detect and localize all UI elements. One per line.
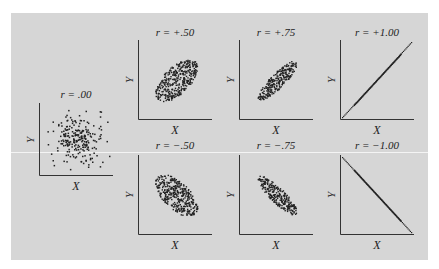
scatter-plot [340, 155, 414, 235]
panel-title: r = +.50 [156, 26, 194, 38]
panel-title: r = +1.00 [355, 26, 399, 38]
panel-title: r = −1.00 [355, 139, 399, 151]
scatter-plot [239, 155, 313, 235]
panel-title: r = −.50 [156, 139, 194, 151]
scatter-panel-rm075 [239, 155, 313, 235]
x-axis-label: X [272, 238, 279, 253]
scatter-panel-rm050 [138, 155, 212, 235]
scatter-panel-rp050 [138, 40, 212, 120]
x-axis-label: X [373, 238, 380, 253]
y-axis-label: Y [123, 192, 135, 198]
x-axis-label: X [171, 123, 178, 138]
y-axis-label: Y [224, 192, 236, 198]
scatter-plot [340, 40, 414, 120]
x-axis-label: X [373, 123, 380, 138]
y-axis-label: Y [224, 77, 236, 83]
y-axis-label: Y [24, 136, 36, 142]
panel-title: r = +.75 [257, 26, 295, 38]
scatter-panel-rp100 [340, 40, 414, 120]
y-axis-label: Y [325, 192, 337, 198]
x-axis-label: X [72, 179, 79, 194]
scatter-plot [138, 40, 212, 120]
scatter-plot [39, 103, 113, 176]
x-axis-label: X [272, 123, 279, 138]
y-axis-label: Y [325, 77, 337, 83]
scatter-plot [239, 40, 313, 120]
panel-title: r = .00 [61, 88, 92, 100]
scatter-panel-rm100 [340, 155, 414, 235]
panel-title: r = −.75 [257, 139, 295, 151]
scatter-plot [138, 155, 212, 235]
scatter-panel-rp075 [239, 40, 313, 120]
y-axis-label: Y [123, 77, 135, 83]
scatter-panel-r000 [39, 103, 113, 176]
x-axis-label: X [171, 238, 178, 253]
